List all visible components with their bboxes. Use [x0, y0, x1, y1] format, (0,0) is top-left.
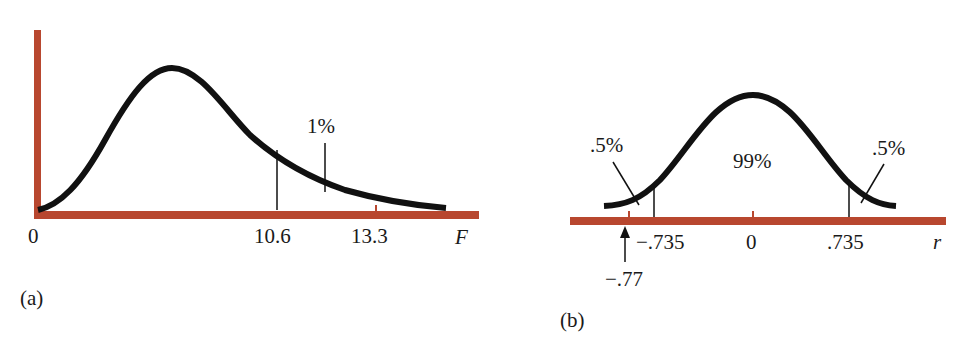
panel-b: .5% 99% .5% −.735 0 .735 r −.77 (b) — [560, 95, 946, 332]
panel-a-origin-label: 0 — [28, 224, 39, 248]
panel-b-right-tail-label: .5% — [872, 136, 905, 160]
panel-a-x-axis-label: F — [454, 225, 468, 249]
panel-a-caption: (a) — [20, 286, 43, 310]
figure-canvas: 1% 0 10.6 13.3 F (a) .5% 99% .5% −.735 0… — [0, 0, 969, 355]
panel-b-caption: (b) — [560, 308, 585, 332]
panel-b-left-tail-pointer — [613, 162, 639, 205]
panel-b-tick-label-pos: .735 — [827, 230, 864, 254]
panel-b-center-label: 99% — [733, 149, 772, 173]
panel-a-x-axis — [34, 211, 479, 219]
panel-b-tick-label-zero: 0 — [746, 230, 757, 254]
panel-b-x-axis — [570, 217, 946, 225]
panel-a-tail-label: 1% — [307, 114, 335, 138]
panel-a-tick-label-10-6: 10.6 — [254, 224, 291, 248]
panel-b-tick-label-neg: −.735 — [636, 230, 685, 254]
panel-a-tick-label-13-3: 13.3 — [351, 224, 388, 248]
panel-b-observed-label: −.77 — [605, 267, 643, 291]
panel-b-x-axis-label: r — [933, 230, 942, 254]
panel-b-left-tail-label: .5% — [590, 133, 623, 157]
panel-a-f-curve — [38, 68, 446, 210]
panel-a-y-axis — [34, 30, 41, 218]
arrow-up-icon — [620, 226, 630, 238]
panel-a: 1% 0 10.6 13.3 F (a) — [20, 30, 479, 310]
